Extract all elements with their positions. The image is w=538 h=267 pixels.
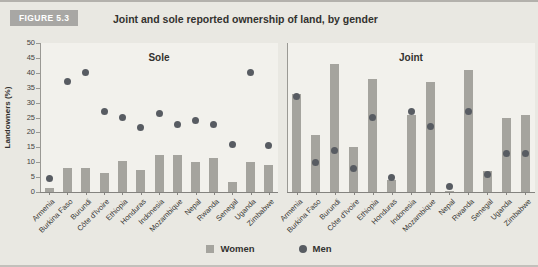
y-tick-mark xyxy=(36,162,40,163)
women-bar xyxy=(155,155,164,192)
y-tick-mark xyxy=(36,192,40,193)
x-tick-mark xyxy=(214,192,215,195)
x-tick-mark xyxy=(468,192,469,195)
men-dot xyxy=(350,165,357,172)
figure-5-3: FIGURE 5.3 Joint and sole reported owner… xyxy=(0,0,538,267)
men-dot xyxy=(312,159,319,166)
x-tick-mark xyxy=(141,192,142,195)
women-bar xyxy=(63,168,72,192)
x-tick-mark xyxy=(392,192,393,195)
y-tick-label: 40 xyxy=(13,69,35,77)
men-dot xyxy=(46,175,53,182)
y-tick-label: 20 xyxy=(13,128,35,136)
x-tick-mark xyxy=(297,192,298,195)
women-bar xyxy=(426,82,435,192)
women-bar xyxy=(100,173,109,192)
panel-title-joint: Joint xyxy=(287,52,535,63)
x-tick-mark xyxy=(104,192,105,195)
women-bar xyxy=(191,162,200,192)
x-tick-mark xyxy=(251,192,252,195)
x-tick-mark xyxy=(411,192,412,195)
y-tick-mark xyxy=(36,118,40,119)
y-tick-label: 10 xyxy=(13,158,35,166)
x-tick-mark xyxy=(269,192,270,195)
x-tick-mark xyxy=(487,192,488,195)
x-tick-mark xyxy=(335,192,336,195)
women-bar xyxy=(246,162,255,192)
x-tick-mark xyxy=(373,192,374,195)
men-dot xyxy=(101,108,108,115)
x-tick-mark xyxy=(159,192,160,195)
y-tick-mark xyxy=(36,88,40,89)
y-tick-label: 25 xyxy=(13,114,35,122)
y-tick-mark xyxy=(36,147,40,148)
women-bar xyxy=(45,188,54,192)
men-dot xyxy=(427,123,434,130)
women-bar xyxy=(445,191,454,192)
men-dot xyxy=(465,108,472,115)
x-tick-mark xyxy=(177,192,178,195)
legend-label-women: Women xyxy=(220,243,254,254)
women-bar xyxy=(173,155,182,192)
legend-label-men: Men xyxy=(313,243,332,254)
women-bar xyxy=(368,79,377,192)
x-tick-mark xyxy=(525,192,526,195)
women-bar xyxy=(209,158,218,192)
chart-legend: Women Men xyxy=(0,243,538,254)
women-bar xyxy=(136,170,145,192)
women-bar xyxy=(264,165,273,192)
x-tick-mark xyxy=(49,192,50,195)
women-bar xyxy=(330,64,339,192)
women-bar xyxy=(118,161,127,192)
y-tick-mark xyxy=(36,103,40,104)
x-tick-mark xyxy=(506,192,507,195)
men-dot xyxy=(156,110,163,117)
y-tick-label: 0 xyxy=(13,188,35,196)
figure-title: Joint and sole reported ownership of lan… xyxy=(113,13,378,25)
women-bar xyxy=(387,180,396,192)
women-bar xyxy=(81,168,90,192)
y-tick-label: 15 xyxy=(13,143,35,151)
y-tick-mark xyxy=(36,177,40,178)
men-dot xyxy=(446,183,453,190)
x-tick-mark xyxy=(67,192,68,195)
y-tick-label: 50 xyxy=(13,39,35,47)
men-dot xyxy=(331,147,338,154)
y-axis-label: Landowners (%) xyxy=(3,82,12,154)
women-bar xyxy=(228,182,237,192)
y-axis-line xyxy=(287,43,288,192)
y-tick-mark xyxy=(36,43,40,44)
x-tick-mark xyxy=(316,192,317,195)
y-tick-mark xyxy=(36,73,40,74)
x-tick-mark xyxy=(430,192,431,195)
men-dot xyxy=(484,171,491,178)
y-tick-label: 5 xyxy=(13,173,35,181)
legend-item-men: Men xyxy=(299,243,332,254)
y-tick-label: 30 xyxy=(13,99,35,107)
y-tick-label: 45 xyxy=(13,54,35,62)
men-dot xyxy=(408,108,415,115)
men-dot xyxy=(229,141,236,148)
x-tick-mark xyxy=(232,192,233,195)
women-bar xyxy=(292,94,301,192)
y-tick-mark xyxy=(36,132,40,133)
x-tick-mark xyxy=(196,192,197,195)
legend-item-women: Women xyxy=(206,243,254,254)
women-bar xyxy=(464,70,473,192)
men-dot xyxy=(503,150,510,157)
y-tick-label: 35 xyxy=(13,84,35,92)
x-tick-mark xyxy=(354,192,355,195)
x-tick-mark xyxy=(449,192,450,195)
women-bar-swatch-icon xyxy=(206,245,214,253)
women-bar xyxy=(407,115,416,192)
x-tick-mark xyxy=(122,192,123,195)
y-axis-line xyxy=(40,43,41,192)
y-tick-mark xyxy=(36,58,40,59)
men-dot xyxy=(522,150,529,157)
panel-title-sole: Sole xyxy=(40,52,278,63)
men-dot-swatch-icon xyxy=(299,245,307,253)
figure-number-badge: FIGURE 5.3 xyxy=(10,10,78,26)
men-dot xyxy=(119,114,126,121)
x-tick-mark xyxy=(86,192,87,195)
